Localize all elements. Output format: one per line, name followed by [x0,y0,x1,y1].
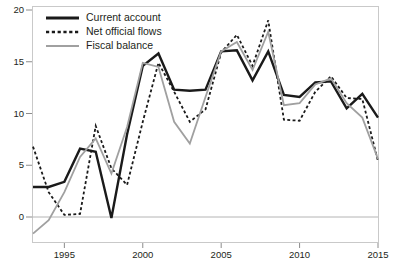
legend-label-fiscal-balance: Fiscal balance [86,40,153,51]
y-tick-label: 5 [0,160,24,170]
chart-legend: Current account Net official flows Fisca… [45,11,162,53]
x-tick-label: 2010 [280,250,320,260]
y-tick-label: 10 [0,109,24,119]
legend-label-current-account: Current account [86,12,161,23]
x-tick-marks [64,243,378,248]
y-tick-marks [26,10,32,217]
y-tick-label: 15 [0,57,24,67]
legend-swatch-solid-gray-icon [45,40,80,52]
series-line [33,32,378,234]
x-tick-label: 2000 [123,250,163,260]
legend-swatch-solid-black-icon [45,12,80,24]
y-tick-label: 0 [0,212,24,222]
legend-item-current-account: Current account [45,11,162,24]
legend-item-net-official-flows: Net official flows [45,25,162,38]
series-line [33,50,378,218]
x-tick-label: 1995 [44,250,84,260]
x-tick-label: 2015 [358,250,393,260]
legend-swatch-dotted-black-icon [45,26,80,38]
legend-label-net-official-flows: Net official flows [86,26,162,37]
y-tick-label: 20 [0,5,24,15]
legend-item-fiscal-balance: Fiscal balance [45,39,162,52]
x-tick-label: 2005 [201,250,241,260]
